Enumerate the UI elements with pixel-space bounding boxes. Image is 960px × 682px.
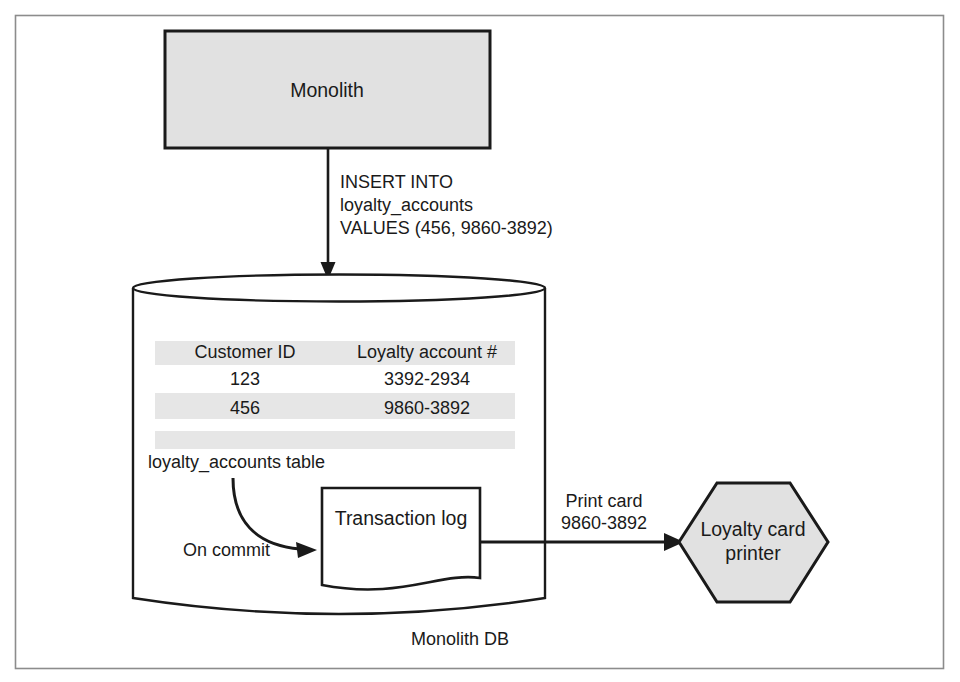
insert-label-line2: loyalty_accounts <box>340 195 473 216</box>
database-label: Monolith DB <box>411 629 509 649</box>
figure-root: Monolith INSERT INTO loyalty_accounts VA… <box>0 0 960 682</box>
insert-label-line3: VALUES (456, 9860-3892) <box>340 218 553 238</box>
table-header-loyalty-account: Loyalty account # <box>357 342 497 362</box>
cylinder-top-ellipse <box>133 275 545 302</box>
table-cell-r0c0: 123 <box>230 369 260 389</box>
transaction-log-label: Transaction log <box>335 507 468 529</box>
table-cell-r0c1: 3392-2934 <box>384 369 470 389</box>
printer-label-line1: Loyalty card <box>700 518 805 540</box>
table-caption: loyalty_accounts table <box>148 452 325 473</box>
transaction-log-shape <box>322 488 480 589</box>
printer-label-line2: printer <box>725 542 781 564</box>
monolith-label: Monolith <box>290 79 364 101</box>
insert-label-line1: INSERT INTO <box>340 172 453 192</box>
print-card-label-line1: Print card <box>565 491 642 511</box>
table-cell-r1c0: 456 <box>230 398 260 418</box>
table-header-customer-id: Customer ID <box>194 342 295 362</box>
table-cell-r1c1: 9860-3892 <box>384 398 470 418</box>
print-card-label-line2: 9860-3892 <box>561 513 647 533</box>
diagram-canvas: Monolith INSERT INTO loyalty_accounts VA… <box>0 0 960 682</box>
table-band-footer <box>155 431 515 449</box>
on-commit-label: On commit <box>183 540 270 560</box>
